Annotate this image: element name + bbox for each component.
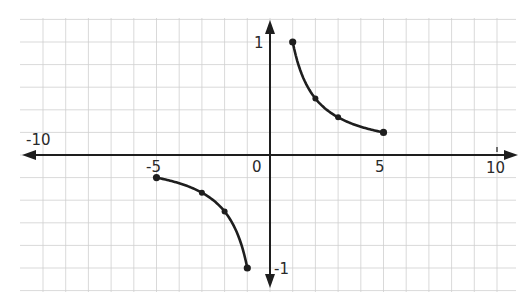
y-axis-up-arrow-icon [265, 20, 275, 34]
data-point [380, 129, 387, 136]
data-point [289, 38, 296, 45]
x-label-neg10: -10 [26, 131, 51, 149]
data-point [312, 96, 318, 102]
x-label-0: 0 [252, 158, 262, 176]
data-point [335, 114, 341, 120]
y-label-neg1: -1 [274, 260, 289, 278]
hyperbola-chart: -10 -5 0 5 10 1 -1 [0, 0, 530, 299]
y-label-1: 1 [254, 34, 264, 52]
x-label-10: 10 [486, 159, 505, 177]
data-point [244, 264, 251, 271]
data-point [199, 190, 205, 196]
x-label-neg5: -5 [146, 158, 161, 176]
axes [22, 20, 518, 288]
x-label-5: 5 [375, 158, 385, 176]
x-axis-left-arrow-icon [22, 150, 36, 160]
data-point [222, 209, 228, 215]
x-axis-right-arrow-icon [504, 150, 518, 160]
